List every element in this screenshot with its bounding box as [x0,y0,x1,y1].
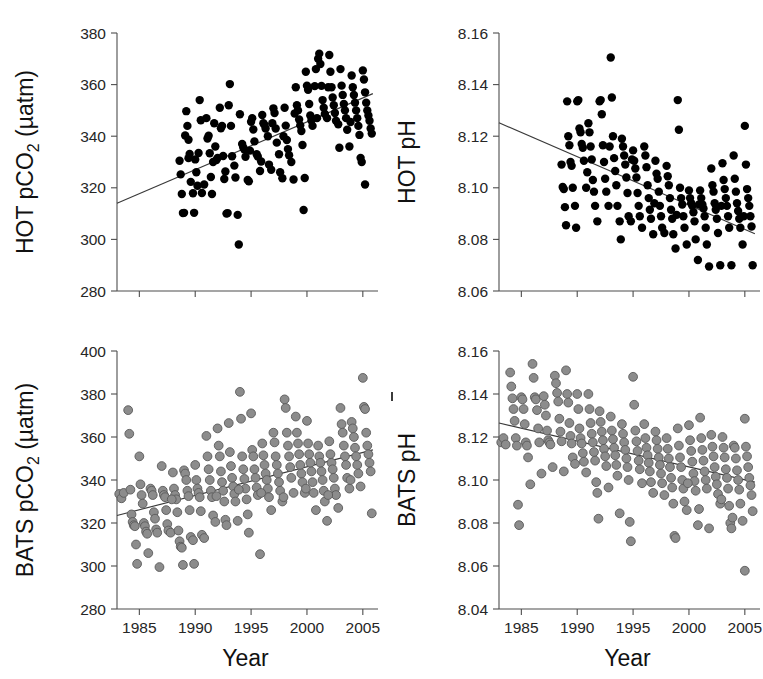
panel-hot-pco2: 280300320340360380HOT pCO2 (µatm) [0,0,381,340]
data-point [335,144,343,152]
x-tick-label: 1985 [122,619,156,636]
data-point [191,461,200,470]
data-point [354,122,362,130]
data-point [617,235,625,243]
data-point [205,476,214,485]
data-point [341,106,349,114]
data-point [580,157,588,165]
data-point [593,489,602,498]
data-point [630,400,639,409]
data-point [640,142,648,150]
data-point [733,199,741,207]
data-point [235,240,243,248]
data-point [672,211,680,219]
data-point [358,158,366,166]
data-point [708,442,717,451]
data-point [192,168,200,176]
data-point [299,206,307,214]
data-point [227,462,236,471]
data-point [203,452,212,461]
data-point [658,479,667,488]
data-point [302,68,310,76]
data-point [304,439,313,448]
data-point [633,189,641,197]
data-point [182,107,190,115]
data-point [272,461,281,470]
data-point [240,475,249,484]
data-point [709,452,718,461]
data-point [591,456,600,465]
data-point [683,479,692,488]
data-point [509,405,518,414]
data-point [364,450,373,459]
data-point [649,230,657,238]
x-tick-label: 2000 [672,619,707,636]
y-tick-label: 360 [80,76,106,93]
data-point [126,485,135,494]
data-point [231,497,240,506]
data-point [552,379,561,388]
data-point [676,453,685,462]
data-point [669,499,678,508]
data-point [214,441,223,450]
plot-bats-ph: 8.048.068.088.108.128.148.16198519901995… [382,318,763,658]
data-point [325,437,334,446]
data-point [675,441,684,450]
data-point [239,465,248,474]
data-point [328,93,336,101]
data-point [564,132,572,140]
data-point [125,429,134,438]
data-point [546,440,555,449]
data-point [351,443,360,452]
data-point [365,458,374,467]
y-axis-label: BATS pH [394,433,420,527]
data-point [571,202,579,210]
data-point [337,420,346,429]
data-point [275,150,283,158]
data-point [247,409,256,418]
data-point [349,433,358,442]
data-point [580,457,589,466]
data-point [574,96,582,104]
data-point [182,476,191,485]
data-point [717,202,725,210]
data-point [208,190,216,198]
data-point [368,129,376,137]
data-point [691,235,699,243]
data-point [724,212,732,220]
data-point [537,469,546,478]
data-point [688,457,697,466]
data-point [245,177,253,185]
data-point [685,421,694,430]
data-point [680,224,688,232]
x-tick-label: 1995 [234,619,268,636]
data-point [664,454,673,463]
data-point [185,506,194,515]
data-point [700,467,709,476]
data-point [514,500,523,509]
data-point [559,467,568,476]
data-point [742,442,751,451]
plot-bats-pco2: 2803003203403603804001985199019952000200… [0,318,381,658]
data-point [743,452,752,461]
data-point [330,101,338,109]
data-point [543,426,552,435]
data-point [334,504,343,513]
data-point [667,473,676,482]
data-point [643,181,651,189]
data-point [640,420,649,429]
data-point [747,491,756,500]
data-point [557,437,566,446]
data-point [177,543,186,552]
data-point [572,224,580,232]
data-point [597,427,606,436]
data-point [702,224,710,232]
data-point [666,463,675,472]
data-point [342,461,351,470]
data-point [298,141,306,149]
data-point [363,441,372,450]
data-point [554,397,563,406]
data-point [717,495,726,504]
data-point [627,217,635,225]
plot-hot-pco2: 280300320340360380HOT pCO2 (µatm) [0,0,381,340]
